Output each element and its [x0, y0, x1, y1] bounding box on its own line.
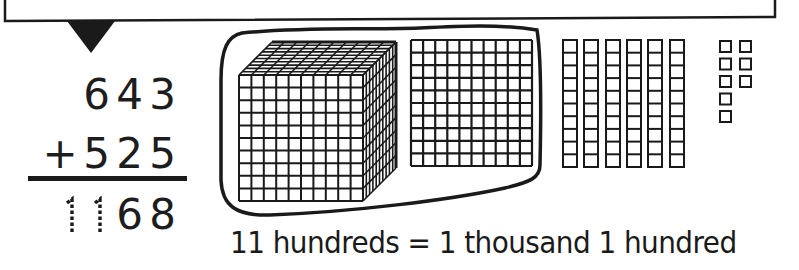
plus-operator: +	[40, 133, 80, 175]
pointer-triangle-icon	[67, 21, 115, 53]
addend-2-hundreds: 5	[80, 133, 113, 175]
thousand-cube	[239, 42, 396, 201]
addend-2: + 5 2 5	[40, 133, 179, 175]
addend-1-hundreds: 6	[80, 74, 113, 116]
hundred-flat	[411, 40, 532, 166]
prompt-box	[5, 0, 775, 21]
sum-hundreds-traced: 1	[80, 194, 113, 236]
sum-thousands-traced: 1	[47, 194, 80, 236]
sum-ones: 8	[146, 194, 179, 236]
ten-rods	[563, 40, 684, 167]
addend-1: 6 4 3	[80, 74, 179, 116]
addend-1-ones: 3	[146, 74, 179, 116]
addend-1-tens: 4	[113, 74, 146, 116]
sum: 1 1 6 8	[47, 194, 179, 236]
sum-tens: 6	[113, 194, 146, 236]
one-units	[720, 41, 751, 122]
addend-2-ones: 5	[146, 133, 179, 175]
regroup-caption: 11 hundreds = 1 thousand 1 hundred	[230, 226, 737, 260]
addend-2-tens: 2	[113, 133, 146, 175]
